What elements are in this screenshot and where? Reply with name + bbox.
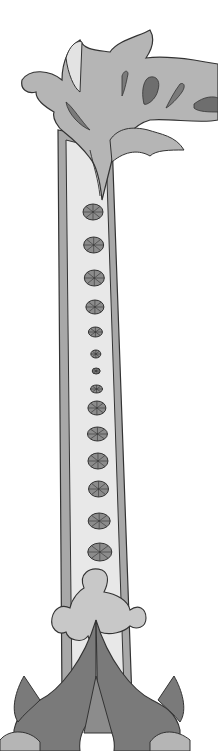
acanthus-capital (22, 30, 218, 200)
medallion (84, 237, 104, 253)
medallion (88, 453, 108, 469)
medallion (88, 543, 112, 561)
medallion (84, 270, 104, 286)
medallion (91, 385, 103, 393)
ornamental-column-illustration (0, 0, 218, 751)
medallion (89, 481, 109, 497)
medallion (86, 300, 104, 314)
medallion (83, 204, 103, 220)
acanthus-base (0, 569, 190, 751)
medallion (87, 427, 107, 441)
medallion (88, 513, 110, 529)
medallion (88, 401, 106, 415)
medallion (91, 350, 101, 358)
medallion (92, 368, 100, 374)
medallion (88, 327, 102, 337)
